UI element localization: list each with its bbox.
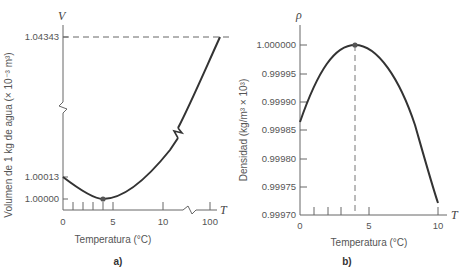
chart-a-y-ticks	[63, 37, 68, 199]
chart-a-x-var: T	[220, 203, 228, 217]
chart-b-y-tick-0.99990: 0.99990	[262, 96, 296, 107]
chart-b-curve	[300, 45, 438, 203]
chart-b-x-var: T	[451, 208, 459, 222]
chart-b-x-label: Temperatura (°C)	[331, 237, 408, 248]
chart-a-min-point	[100, 196, 105, 201]
chart-a-x-tick-5: 5	[110, 216, 115, 227]
chart-a-curve-lower	[63, 138, 178, 199]
chart-a-y-tick-1.00013: 1.00013	[25, 171, 59, 182]
chart-b-y-label: Densidad (kg/m³ × 10³)	[238, 79, 249, 182]
chart-b-x-ticks	[314, 207, 438, 215]
chart-b-y-tick-0.99995: 0.99995	[262, 68, 296, 79]
chart-b-y-tick-0.99980: 0.99980	[262, 153, 296, 164]
chart-b-y-ticks	[300, 45, 307, 187]
chart-a-y-tick-1.04343: 1.04343	[25, 31, 59, 42]
chart-a-x-tick-0: 0	[60, 216, 65, 227]
chart-b-y-tick-0.99970: 0.99970	[262, 209, 296, 220]
chart-a-y-tick-1.00000: 1.00000	[25, 193, 59, 204]
chart-a-y-label: Volumen de 1 kg de agua (× 10⁻³ m³)	[3, 52, 14, 217]
chart-a-y-var: V	[58, 9, 67, 23]
chart-b-x-tick-0: 0	[297, 220, 302, 231]
chart-a-curve-upper	[178, 37, 220, 128]
chart-b-max-point	[352, 42, 357, 47]
chart-a-curve-break	[174, 128, 182, 138]
chart-a-x-tick-10: 10	[158, 216, 169, 227]
chart-b-y-tick-0.99975: 0.99975	[262, 181, 296, 192]
chart-b-x-tick-5: 5	[366, 220, 371, 231]
chart-a-x-tick-100: 100	[202, 216, 218, 227]
chart-b-y-tick-0.99985: 0.99985	[262, 124, 296, 135]
figure: V T 0 5 10 100 1.04343 1.00013 1.00000	[0, 0, 464, 269]
chart-a-x-label: Temperatura (°C)	[75, 234, 152, 245]
chart-a-x-axis-break	[183, 206, 196, 214]
chart-b-panel-label: b)	[342, 256, 351, 267]
chart-b-x-tick-10: 10	[433, 220, 444, 231]
chart-b-y-tick-1.000000: 1.000000	[256, 39, 296, 50]
chart-a-panel-label: a)	[114, 256, 123, 267]
chart-b-y-var: ρ	[295, 8, 302, 22]
chart-a-y-axis-break	[59, 102, 67, 113]
chart-b: ρ T 1.000000 0.99995 0.99990 0.99985 0.9…	[238, 8, 459, 267]
chart-a: V T 0 5 10 100 1.04343 1.00013 1.00000	[3, 9, 232, 267]
